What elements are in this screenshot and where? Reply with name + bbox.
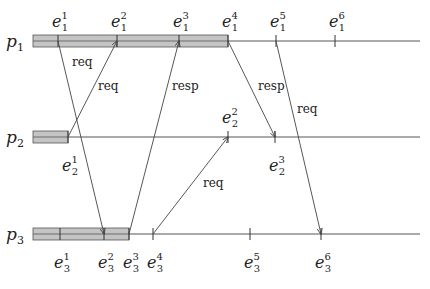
process-label: p3 — [6, 224, 24, 247]
event-label: e11 — [52, 10, 68, 33]
message-label: resp — [258, 79, 285, 93]
event-label: e32 — [269, 154, 285, 177]
process-timelines: p1p2p3 — [6, 31, 420, 247]
process-p2: p2 — [6, 127, 420, 150]
message-label: req — [203, 176, 224, 190]
event-label: e43 — [147, 251, 163, 274]
event-label: e63 — [315, 251, 331, 274]
process-p1: p1 — [6, 31, 420, 54]
process-p3: p3 — [6, 224, 420, 247]
space-time-diagram: p1p2p3 reqreqrespreqrespreq e11e21e31e41… — [0, 0, 430, 289]
message-label: req — [72, 55, 93, 69]
message-label: resp — [172, 79, 199, 93]
event-label: e22 — [222, 106, 238, 129]
event-label: e33 — [123, 251, 139, 274]
process-label: p2 — [6, 127, 24, 150]
event-label: e51 — [270, 10, 286, 33]
event-label: e12 — [62, 154, 78, 177]
event-label: e13 — [54, 251, 70, 274]
message-label: req — [98, 79, 119, 93]
message-label: req — [297, 102, 318, 116]
event-label: e21 — [111, 10, 127, 33]
event-label: e31 — [173, 10, 189, 33]
event-label: e41 — [222, 10, 238, 33]
event-label: e53 — [244, 251, 260, 274]
event-label: e23 — [98, 251, 114, 274]
event-label: e61 — [329, 10, 345, 33]
process-label: p1 — [6, 31, 24, 54]
diagram-svg: p1p2p3 reqreqrespreqrespreq e11e21e31e41… — [0, 0, 430, 289]
